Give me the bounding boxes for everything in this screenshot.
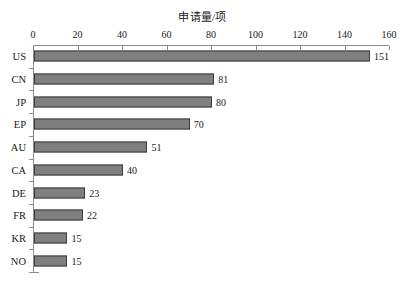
y-axis-category-label: AU xyxy=(11,142,26,153)
x-tick-label: 80 xyxy=(206,29,216,40)
bar xyxy=(34,51,370,62)
x-tick xyxy=(389,46,390,50)
bar-value-label: 70 xyxy=(194,119,204,130)
bar xyxy=(34,255,67,266)
bar-value-label: 81 xyxy=(218,74,228,85)
y-axis-category-label: US xyxy=(13,51,26,62)
y-tick xyxy=(29,136,33,137)
x-tick xyxy=(211,46,212,50)
y-axis-category-label: JP xyxy=(16,96,26,107)
x-tick xyxy=(300,46,301,50)
bar-chart: 申请量/项 020406080100120140160 USCNJPEPAUCA… xyxy=(0,0,405,281)
x-tick xyxy=(122,46,123,50)
y-tick xyxy=(29,159,33,160)
bar xyxy=(34,210,83,221)
y-tick xyxy=(29,249,33,250)
x-tick xyxy=(78,46,79,50)
y-axis-category-label: FR xyxy=(13,210,26,221)
chart-title: 申请量/项 xyxy=(0,8,405,24)
x-tick xyxy=(167,46,168,50)
y-axis-category-label: DE xyxy=(12,187,26,198)
x-tick xyxy=(33,46,34,50)
bar-value-label: 51 xyxy=(151,142,161,153)
x-tick-label: 0 xyxy=(31,29,36,40)
y-axis-category-label: EP xyxy=(14,119,26,130)
bar xyxy=(34,142,147,153)
y-tick xyxy=(29,272,33,273)
bar-value-label: 151 xyxy=(374,51,389,62)
bar xyxy=(34,96,212,107)
bar xyxy=(34,164,123,175)
x-tick-label: 100 xyxy=(248,29,263,40)
plot-area: 020406080100120140160 USCNJPEPAUCADEFRKR… xyxy=(33,45,389,272)
y-tick xyxy=(29,227,33,228)
x-tick-label: 40 xyxy=(117,29,127,40)
bar-value-label: 40 xyxy=(127,164,137,175)
x-tick xyxy=(345,46,346,50)
x-tick-label: 140 xyxy=(337,29,352,40)
y-axis-category-label: CA xyxy=(11,164,26,175)
y-tick xyxy=(29,181,33,182)
bar-value-label: 80 xyxy=(216,96,226,107)
bar-value-label: 15 xyxy=(71,232,81,243)
y-tick xyxy=(29,113,33,114)
y-axis-bottom-stub xyxy=(33,272,39,273)
y-tick xyxy=(29,90,33,91)
bar xyxy=(34,187,85,198)
bar xyxy=(34,119,190,130)
x-tick-label: 60 xyxy=(162,29,172,40)
x-tick xyxy=(256,46,257,50)
y-axis-category-label: CN xyxy=(11,74,26,85)
bar-value-label: 23 xyxy=(89,187,99,198)
y-axis-category-label: KR xyxy=(11,232,26,243)
bar xyxy=(34,232,67,243)
bar xyxy=(34,74,214,85)
bar-value-label: 22 xyxy=(87,210,97,221)
x-tick-label: 20 xyxy=(73,29,83,40)
x-tick-label: 160 xyxy=(382,29,397,40)
y-axis-category-label: NO xyxy=(11,255,26,266)
y-tick xyxy=(29,68,33,69)
bar-value-label: 15 xyxy=(71,255,81,266)
x-tick-label: 120 xyxy=(293,29,308,40)
y-tick xyxy=(29,204,33,205)
